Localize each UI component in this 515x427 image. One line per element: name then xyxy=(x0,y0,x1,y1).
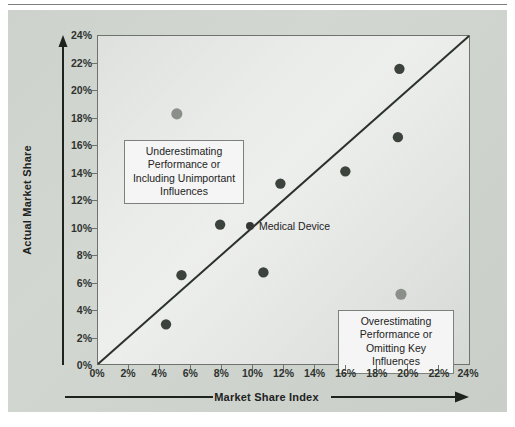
y-axis-title: Actual Market Share xyxy=(16,35,38,365)
data-point xyxy=(215,219,225,229)
data-point xyxy=(171,108,182,119)
x-tick-7: 14% xyxy=(304,368,325,379)
y-tick-3: 6% xyxy=(77,277,92,288)
data-point xyxy=(258,267,268,277)
x-axis-tick-labels: 0% 2% 4% 6% 8% 10% 12% 14% 16% 18% 20% 2… xyxy=(97,368,470,384)
y-tick-6: 12% xyxy=(71,195,92,206)
chart-panel: Actual Market Share 0% 2% 4% 6% 8% 10% 1… xyxy=(8,10,507,412)
chart-figure: Actual Market Share 0% 2% 4% 6% 8% 10% 1… xyxy=(0,0,515,427)
data-point xyxy=(161,319,171,329)
x-tick-11: 22% xyxy=(428,368,449,379)
callout-overestimating: Overestimating Performance or Omitting K… xyxy=(338,310,454,374)
series-legend-medical-device: Medical Device xyxy=(246,220,330,232)
top-divider-rule xyxy=(8,4,507,5)
data-point xyxy=(393,132,403,142)
x-axis-title-label: Market Share Index xyxy=(208,391,324,403)
y-tick-9: 18% xyxy=(71,112,92,123)
data-point xyxy=(394,64,404,74)
y-tick-2: 4% xyxy=(77,305,92,316)
y-tick-11: 22% xyxy=(71,57,92,68)
series-legend-label: Medical Device xyxy=(259,220,330,232)
callout-underestimating: Underestimating Performance or Including… xyxy=(124,140,244,204)
y-axis-title-label: Actual Market Share xyxy=(21,145,33,255)
data-point xyxy=(275,178,285,188)
series-marker-icon xyxy=(246,222,254,230)
x-tick-4: 8% xyxy=(214,368,229,379)
x-axis-title: Market Share Index xyxy=(63,388,470,406)
y-tick-12: 24% xyxy=(71,30,92,41)
x-tick-2: 4% xyxy=(152,368,167,379)
y-tick-1: 2% xyxy=(77,332,92,343)
data-point xyxy=(176,270,186,280)
x-tick-12: 24% xyxy=(457,368,478,379)
y-tick-8: 16% xyxy=(71,140,92,151)
x-tick-0: 0% xyxy=(89,368,104,379)
x-tick-10: 20% xyxy=(397,368,418,379)
y-tick-10: 20% xyxy=(71,85,92,96)
x-tick-3: 6% xyxy=(183,368,198,379)
y-axis-tick-labels: 0% 2% 4% 6% 8% 10% 12% 14% 16% 18% 20% 2… xyxy=(42,35,92,365)
y-tick-4: 8% xyxy=(77,250,92,261)
x-tick-1: 2% xyxy=(121,368,136,379)
y-tick-7: 14% xyxy=(71,167,92,178)
y-tick-5: 10% xyxy=(71,222,92,233)
x-tick-8: 16% xyxy=(335,368,356,379)
x-tick-9: 18% xyxy=(366,368,387,379)
x-tick-5: 10% xyxy=(242,368,263,379)
x-tick-6: 12% xyxy=(273,368,294,379)
data-point xyxy=(340,166,350,176)
data-point xyxy=(395,289,406,300)
